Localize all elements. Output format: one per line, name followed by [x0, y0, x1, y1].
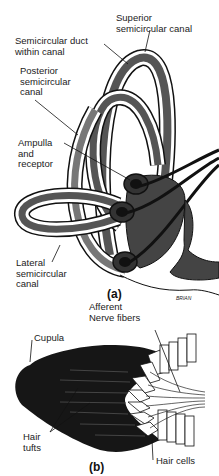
label-ampulla-receptor: Ampulla and receptor [18, 138, 53, 170]
caption-panel-b: (b) [89, 460, 104, 474]
label-lateral-canal: Lateral semicircular canal [16, 258, 67, 290]
label-hair-tufts: Hair tufts [23, 432, 41, 453]
label-cupula: Cupula [34, 333, 64, 344]
label-afferent-nerve-fibers: Afferent Nerve fibers [89, 302, 140, 323]
label-posterior-canal: Posterior semicircular canal [20, 66, 71, 98]
label-superior-canal: Superior semicircular canal [116, 13, 192, 34]
artist-signature: BRIAN [176, 293, 191, 304]
caption-panel-a: (a) [107, 287, 122, 301]
label-semicircular-duct: Semicircular duct within canal [15, 36, 88, 57]
label-hair-cells: Hair cells [156, 456, 195, 467]
